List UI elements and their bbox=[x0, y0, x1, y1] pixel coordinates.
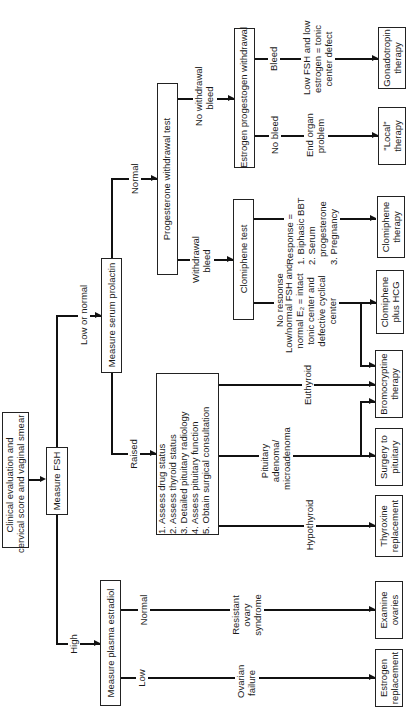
node-clinical-evaluation-label: Clinical evaluation and cervical score a… bbox=[4, 417, 26, 553]
edge-label-withdrawal-bleed: Withdrawal bleed bbox=[190, 239, 214, 283]
node-clomiphene-therapy-label: Clomiphene therapy bbox=[380, 196, 402, 258]
edge-label-no-response-desc: Low/normal FSH and normal E₂ = intact to… bbox=[283, 269, 339, 353]
edge-label-low-or-normal: Low or normal bbox=[78, 285, 90, 345]
edge-adenoma-to-bromo bbox=[360, 401, 362, 456]
arrow-head-icon bbox=[370, 215, 376, 221]
arrow-head-icon bbox=[40, 476, 46, 482]
edge-label-end-organ: End organ problem bbox=[304, 115, 328, 157]
edge-label-estradiol-normal: Normal bbox=[138, 594, 150, 626]
node-progesterone-test-label: Progesterone withdrawal test bbox=[161, 83, 173, 275]
edge-fsh-up bbox=[56, 315, 58, 447]
arrow-head-icon bbox=[227, 256, 233, 262]
arrow-head-icon bbox=[369, 398, 375, 404]
edge-label-no-withdrawal-bleed: No withdrawal bleed bbox=[193, 70, 217, 126]
arrow-head-icon bbox=[369, 452, 375, 458]
arrow-head-icon bbox=[228, 95, 234, 101]
edge-label-normal-prolactin: Normal bbox=[129, 164, 141, 194]
edge-label-estradiol-low: Low bbox=[136, 668, 148, 688]
edge-label-bleed: Bleed bbox=[268, 47, 280, 71]
edge-label-resistant-ovary: Resistant ovary syndrome bbox=[230, 589, 264, 641]
edge-label-response-desc: Response = 1. Biphasic BBT 2. Serum prog… bbox=[284, 185, 340, 265]
node-local-therapy-label: "Local" therapy bbox=[381, 107, 403, 165]
arrow-head-icon bbox=[94, 640, 100, 646]
node-clomiphene-plus-hcg-label: Clomiphene plus HCG bbox=[379, 270, 401, 334]
edge-pituitary-adenoma bbox=[219, 455, 375, 457]
node-surgery-pituitary-label: Surgery to pituitary bbox=[378, 428, 400, 486]
node-estrogen-replacement-label: Estrogen replacement bbox=[378, 644, 400, 711]
node-bromocriptine-therapy-label: Bromocryptine therapy bbox=[378, 350, 400, 418]
node-estrogen-progestogen-label: Estrogen progestogen withdrawal bbox=[238, 28, 250, 168]
arrow-head-icon bbox=[151, 175, 157, 181]
node-raised-steps-label: 1. Assess drug status 2. Assess thyroid … bbox=[156, 374, 212, 534]
edge-label-euthyroid: Euthyroid bbox=[302, 365, 314, 405]
arrow-head-icon bbox=[95, 312, 101, 318]
edge-label-raised: Raised bbox=[128, 439, 140, 469]
edge-label-no-bleed: No bleed bbox=[269, 116, 281, 154]
edge-label-hypothyroid: Hypothyroid bbox=[304, 499, 316, 551]
edge-label-ovarian-failure: Ovarian failure bbox=[235, 668, 259, 698]
arrow-head-icon bbox=[369, 522, 375, 528]
arrow-head-icon bbox=[369, 381, 375, 387]
arrow-head-icon bbox=[369, 606, 375, 612]
arrow-head-icon bbox=[370, 299, 376, 305]
edge-euthyroid bbox=[219, 384, 375, 386]
edge-no-response-to-bromo bbox=[360, 302, 362, 366]
edge-label-pituitary-adenoma: Pituitary adenoma/ microadenoma bbox=[259, 432, 293, 490]
node-thyroxine-replacement-label: Thyroxine replacement bbox=[378, 495, 400, 557]
arrow-head-icon bbox=[372, 132, 378, 138]
edge-prl-down bbox=[111, 373, 113, 453]
edge-prl-up bbox=[111, 178, 113, 258]
edge-hypothyroid bbox=[219, 525, 375, 527]
node-examine-ovaries-label: Examine ovaries bbox=[378, 581, 400, 639]
arrow-head-icon bbox=[369, 674, 375, 680]
node-clomiphene-test-label: Clomiphene test bbox=[238, 199, 250, 320]
node-measure-prolactin-label: Measure serum prolactin bbox=[106, 258, 118, 373]
arrow-head-icon bbox=[150, 450, 156, 456]
arrow-head-icon bbox=[372, 55, 378, 61]
node-measure-fsh-label: Measure FSH bbox=[51, 447, 63, 515]
edge-label-high: High bbox=[68, 632, 80, 656]
node-gonadotropin-therapy-label: Gonadotropin therapy bbox=[381, 27, 403, 89]
edge-label-tonic-defect: Low FSH and low estrogen = tonic center … bbox=[301, 23, 335, 95]
node-measure-estradiol-label: Measure plasma estradiol bbox=[105, 580, 117, 706]
arrow-head-icon bbox=[369, 362, 375, 368]
edge-fsh-down bbox=[56, 515, 58, 643]
